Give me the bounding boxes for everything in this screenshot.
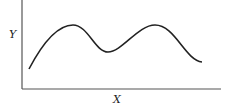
y-axis-label: Y <box>9 28 18 41</box>
x-axis-label: X <box>112 93 122 106</box>
curve <box>29 25 202 69</box>
diagram: Y X <box>0 0 225 110</box>
